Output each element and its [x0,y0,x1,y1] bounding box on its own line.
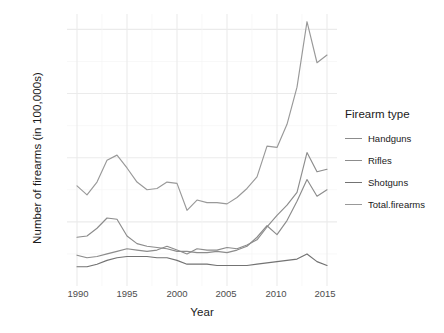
legend-line-icon [345,199,362,210]
legend-line-icon [345,155,362,166]
legend: Firearm type Handguns Rifles Shotguns To… [345,108,444,217]
legend-line-icon [345,177,362,188]
legend-item-shotguns[interactable]: Shotguns [345,173,444,192]
chart-root: Number of firearms (in 100,000s) 100 75 … [0,0,444,333]
plot-svg [67,14,337,286]
x-tick-label: 2000 [157,288,197,299]
legend-item-label: Rifles [368,155,392,166]
y-axis-title: Number of firearms (in 100,000s) [31,43,43,273]
x-tick-label: 1995 [107,288,147,299]
legend-line-icon [345,133,362,144]
x-axis-title: Year [78,306,326,318]
legend-item-label: Total.firearms [368,199,425,210]
legend-title: Firearm type [345,108,444,120]
legend-item-handguns[interactable]: Handguns [345,129,444,148]
x-tick-label: 1990 [58,288,98,299]
legend-item-label: Shotguns [368,177,408,188]
x-tick-label: 2010 [256,288,296,299]
gridlines [67,14,337,286]
x-tick-label: 2005 [206,288,246,299]
legend-item-rifles[interactable]: Rifles [345,151,444,170]
plot-panel [67,14,337,286]
legend-item-label: Handguns [368,133,411,144]
legend-item-total-firearms[interactable]: Total.firearms [345,195,444,214]
x-tick-label: 2015 [305,288,345,299]
